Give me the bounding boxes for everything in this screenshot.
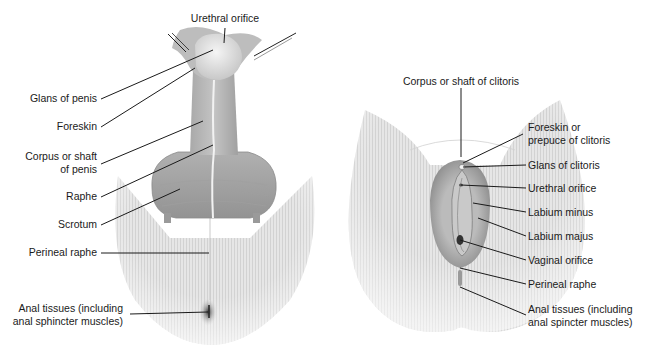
label-corpus-clitoris: Corpus or shaft of clitoris <box>400 75 522 88</box>
label-foreskin: Foreskin <box>0 120 97 133</box>
label-scrotum: Scrotum <box>0 218 97 231</box>
label-corpus-penis-line1: Corpus or shaft <box>0 150 97 163</box>
label-male-urethral-orifice: Urethral orifice <box>190 12 260 25</box>
label-glans-of-penis: Glans of penis <box>0 92 97 105</box>
label-male-anal-line2: anal sphincter muscles) <box>0 315 123 328</box>
label-labium-minus: Labium minus <box>528 206 593 219</box>
label-male-anal-line1: Anal tissues (including <box>0 302 123 315</box>
anatomy-diagram <box>0 0 645 353</box>
label-female-anal-line2: anal spincter muscles) <box>528 316 632 329</box>
label-female-perineal-raphe: Perineal raphe <box>528 278 596 291</box>
label-vaginal-orifice: Vaginal orifice <box>528 254 593 267</box>
label-female-urethral-orifice: Urethral orifice <box>528 182 596 195</box>
label-prepuce-line2: prepuce of clitoris <box>528 134 610 147</box>
label-glans-of-clitoris: Glans of clitoris <box>528 159 600 172</box>
label-female-anal-line1: Anal tissues (including <box>528 303 632 316</box>
label-labium-majus: Labium majus <box>528 230 593 243</box>
label-male-perineal-raphe: Perineal raphe <box>0 246 97 259</box>
male-figure <box>115 27 314 345</box>
label-corpus-penis-line2: of penis <box>0 163 97 176</box>
label-prepuce-line1: Foreskin or <box>528 121 581 134</box>
label-raphe: Raphe <box>0 190 97 203</box>
